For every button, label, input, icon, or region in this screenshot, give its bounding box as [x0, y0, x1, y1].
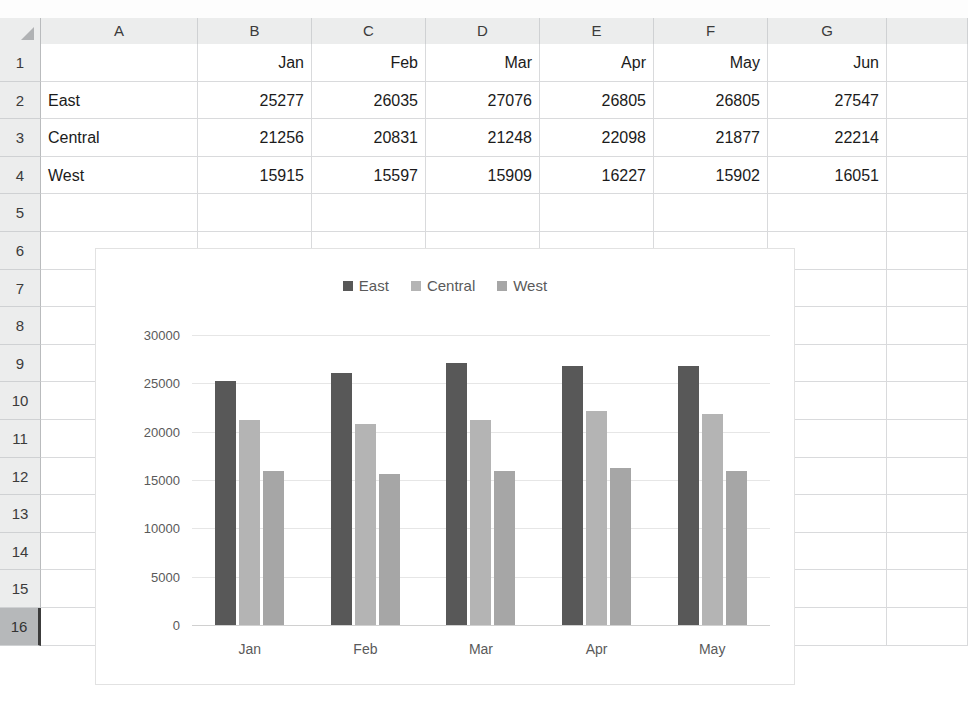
cell-H9[interactable] [887, 345, 968, 383]
cell-H16[interactable] [887, 608, 968, 646]
cell-H11[interactable] [887, 420, 968, 458]
cell-G1[interactable]: Jun [768, 44, 887, 82]
row-header-7[interactable]: 7 [0, 270, 41, 308]
cell-D1[interactable]: Mar [426, 44, 540, 82]
cell-E1[interactable]: Apr [540, 44, 654, 82]
cell-H4[interactable] [887, 157, 968, 195]
cell-H1[interactable] [887, 44, 968, 82]
column-header-g[interactable]: G [768, 18, 887, 44]
cell-E3[interactable]: 22098 [540, 119, 654, 157]
cell-E5[interactable] [540, 194, 654, 232]
bar-east-feb[interactable] [331, 373, 352, 625]
bar-central-apr[interactable] [586, 411, 607, 625]
cell-D5[interactable] [426, 194, 540, 232]
row-header-12[interactable]: 12 [0, 458, 41, 496]
bar-west-apr[interactable] [610, 468, 631, 625]
column-header-e[interactable]: E [540, 18, 654, 44]
select-all-corner[interactable] [0, 18, 41, 44]
embedded-bar-chart[interactable]: EastCentralWest 050001000015000200002500… [95, 248, 795, 685]
cell-B5[interactable] [198, 194, 312, 232]
bar-central-jan[interactable] [239, 420, 260, 625]
cell-H2[interactable] [887, 82, 968, 120]
cell-B2[interactable]: 25277 [198, 82, 312, 120]
cell-A4[interactable]: West [41, 157, 198, 195]
worksheet-grid[interactable]: ABCDEFG 12345678910111213141516 JanFebMa… [0, 18, 968, 726]
cell-E2[interactable]: 26805 [540, 82, 654, 120]
cell-C2[interactable]: 26035 [312, 82, 426, 120]
row-header-13[interactable]: 13 [0, 495, 41, 533]
row-header-10[interactable]: 10 [0, 382, 41, 420]
cell-H6[interactable] [887, 232, 968, 270]
cell-B1[interactable]: Jan [198, 44, 312, 82]
column-header-d[interactable]: D [426, 18, 540, 44]
column-header-c[interactable]: C [312, 18, 426, 44]
row-header-9[interactable]: 9 [0, 345, 41, 383]
cell-A1[interactable] [41, 44, 198, 82]
row-header-5[interactable]: 5 [0, 194, 41, 232]
cell-B3[interactable]: 21256 [198, 119, 312, 157]
cell-G4[interactable]: 16051 [768, 157, 887, 195]
cell-C4[interactable]: 15597 [312, 157, 426, 195]
cell-D3[interactable]: 21248 [426, 119, 540, 157]
row-header-6[interactable]: 6 [0, 232, 41, 270]
row-header-15[interactable]: 15 [0, 570, 41, 608]
cell-H5[interactable] [887, 194, 968, 232]
row-header-4[interactable]: 4 [0, 157, 41, 195]
row-header-16[interactable]: 16 [0, 608, 41, 646]
cell-G3[interactable]: 22214 [768, 119, 887, 157]
cell-H3[interactable] [887, 119, 968, 157]
row-header-3[interactable]: 3 [0, 119, 41, 157]
column-header-partial[interactable] [887, 18, 968, 44]
cell-value: 26805 [661, 82, 760, 120]
row-header-11[interactable]: 11 [0, 420, 41, 458]
cell-A5[interactable] [41, 194, 198, 232]
cell-F5[interactable] [654, 194, 768, 232]
row-header-14[interactable]: 14 [0, 533, 41, 571]
cell-G2[interactable]: 27547 [768, 82, 887, 120]
cell-A2[interactable]: East [41, 82, 198, 120]
bar-west-may[interactable] [726, 471, 747, 625]
bar-central-mar[interactable] [470, 420, 491, 625]
cell-value: 21256 [205, 119, 304, 157]
cell-F2[interactable]: 26805 [654, 82, 768, 120]
bar-west-mar[interactable] [494, 471, 515, 625]
legend-item-west[interactable]: West [497, 277, 547, 294]
bar-west-feb[interactable] [379, 474, 400, 625]
cell-F1[interactable]: May [654, 44, 768, 82]
bar-central-may[interactable] [702, 414, 723, 625]
column-header-a[interactable]: A [41, 18, 198, 44]
cell-C5[interactable] [312, 194, 426, 232]
cell-G5[interactable] [768, 194, 887, 232]
row-header-2[interactable]: 2 [0, 82, 41, 120]
row-header-1[interactable]: 1 [0, 44, 41, 82]
cell-D4[interactable]: 15909 [426, 157, 540, 195]
cell-F4[interactable]: 15902 [654, 157, 768, 195]
cell-E4[interactable]: 16227 [540, 157, 654, 195]
cell-C3[interactable]: 20831 [312, 119, 426, 157]
bar-central-feb[interactable] [355, 424, 376, 625]
cell-A3[interactable]: Central [41, 119, 198, 157]
bar-east-mar[interactable] [446, 363, 467, 625]
bar-west-jan[interactable] [263, 471, 284, 625]
column-header-f[interactable]: F [654, 18, 768, 44]
x-axis-tick-label: Apr [539, 641, 655, 657]
legend-item-central[interactable]: Central [411, 277, 475, 294]
cell-H7[interactable] [887, 270, 968, 308]
legend-item-east[interactable]: East [343, 277, 389, 294]
column-header-b[interactable]: B [198, 18, 312, 44]
cell-H8[interactable] [887, 307, 968, 345]
cell-H15[interactable] [887, 570, 968, 608]
cell-H10[interactable] [887, 382, 968, 420]
cell-H12[interactable] [887, 458, 968, 496]
cell-B4[interactable]: 15915 [198, 157, 312, 195]
cell-value: 26805 [547, 82, 646, 120]
bar-east-jan[interactable] [215, 381, 236, 625]
cell-C1[interactable]: Feb [312, 44, 426, 82]
cell-H14[interactable] [887, 533, 968, 571]
bar-east-apr[interactable] [562, 366, 583, 625]
bar-east-may[interactable] [678, 366, 699, 625]
cell-F3[interactable]: 21877 [654, 119, 768, 157]
cell-D2[interactable]: 27076 [426, 82, 540, 120]
cell-H13[interactable] [887, 495, 968, 533]
row-header-8[interactable]: 8 [0, 307, 41, 345]
